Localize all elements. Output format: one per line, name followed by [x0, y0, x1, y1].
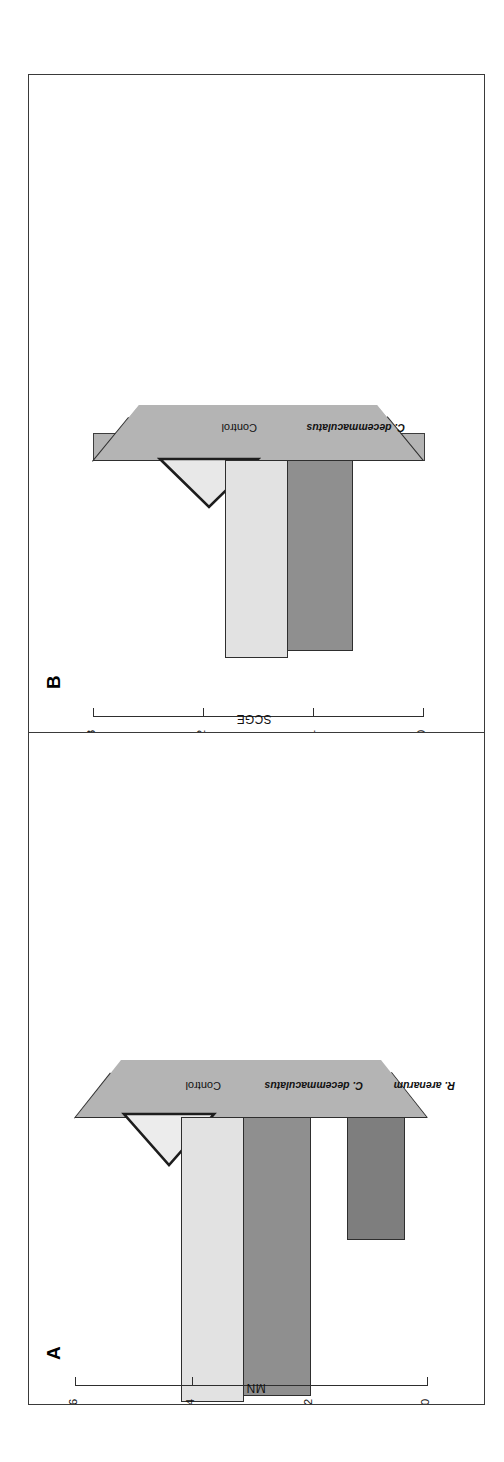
panel-a: A 6 4 2 0 MN C	[29, 733, 484, 1404]
panel-a-ticklabel-0: 0	[419, 1390, 431, 1404]
panel-b-letter: B	[43, 675, 65, 689]
panel-a-bar-cdec-front	[243, 1117, 311, 1396]
panel-b-tick-1	[313, 708, 314, 717]
panel-a-tick-0	[427, 1377, 428, 1386]
panel-b-catlabel-cdec: C. decemmaculatus	[245, 422, 405, 434]
panel-b-stage: B 3 2 1 0 SCGE	[29, 75, 484, 733]
panel-b-bar-cdec-front	[287, 460, 353, 651]
panel-b-ticklabel-1: 1	[305, 721, 317, 733]
panel-b-catlabel-control: Control	[137, 422, 257, 434]
panel-a-bar-raren	[347, 1117, 405, 1240]
panel-a-letter: A	[43, 1346, 65, 1360]
panel-b-ticklabel-3: 3	[85, 721, 97, 733]
panel-a-tick-6	[75, 1377, 76, 1386]
panel-a-ticklabel-4: 4	[184, 1390, 196, 1404]
panel-a-stage: A 6 4 2 0 MN C	[29, 733, 484, 1404]
panel-b: B 3 2 1 0 SCGE	[29, 75, 484, 733]
panel-a-tick-2	[310, 1377, 311, 1386]
panel-a-axis-title: MN	[206, 1381, 306, 1395]
panel-b-bar-cdec-back	[225, 460, 288, 658]
panel-b-axis-title: SCGE	[204, 712, 304, 726]
panel-b-tick-0	[423, 708, 424, 717]
figure-frame: B 3 2 1 0 SCGE	[28, 74, 485, 1405]
panel-a-tick-4	[192, 1377, 193, 1386]
panel-a-bar-cdec-back	[181, 1117, 244, 1402]
panel-a-ticklabel-6: 6	[67, 1390, 79, 1404]
panel-b-ticklabel-0: 0	[415, 721, 427, 733]
panel-a-catlabel-raren: R. arenarum	[315, 1080, 455, 1092]
panel-b-tick-3	[93, 708, 94, 717]
